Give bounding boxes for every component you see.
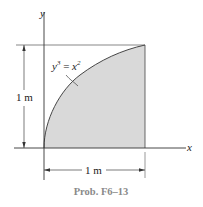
width-dimension-label: 1 m — [85, 164, 102, 176]
arrow-down-icon — [22, 142, 25, 148]
diagram-canvas: y x y3 = x2 1 m 1 m Prob. F6–13 — [0, 0, 203, 207]
y-axis-label: y — [39, 7, 45, 19]
equation-label: y3 = x2 — [51, 59, 81, 72]
arrow-up-icon — [22, 45, 25, 51]
arrow-right-icon — [139, 168, 145, 171]
arrow-left-icon — [44, 168, 50, 171]
figure-caption: Prob. F6–13 — [74, 186, 129, 197]
x-axis-label: x — [186, 141, 192, 153]
height-dimension-label: 1 m — [16, 91, 33, 103]
